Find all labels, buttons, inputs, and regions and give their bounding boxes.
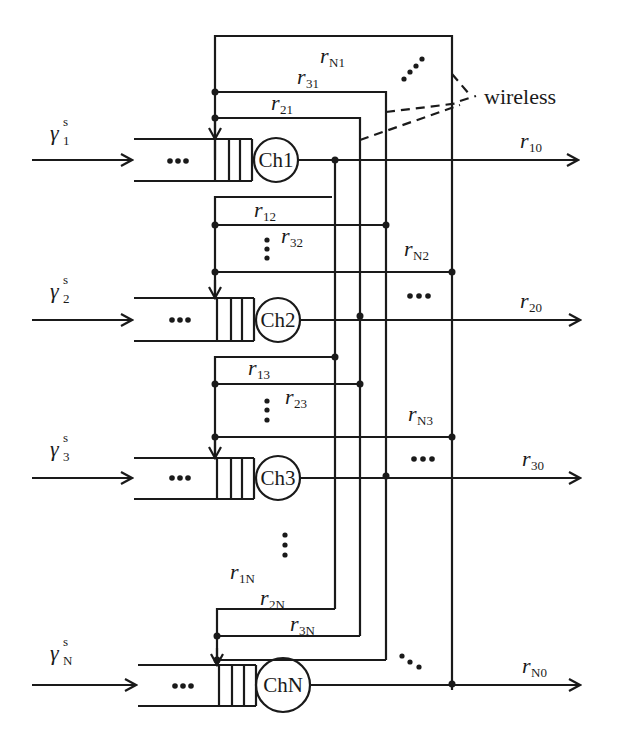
svg-text:r: r	[248, 355, 257, 380]
svg-text:N: N	[63, 653, 73, 668]
transfer-label-r13: r 13	[248, 355, 270, 382]
channel-label-3: Ch3	[260, 466, 295, 490]
svg-text:r: r	[285, 384, 294, 409]
svg-text:r: r	[297, 64, 306, 89]
channel-row-3	[32, 354, 580, 501]
svg-text:r: r	[290, 611, 299, 636]
svg-text:1N: 1N	[239, 571, 256, 586]
wireless-links	[360, 74, 476, 140]
svg-text:3N: 3N	[299, 623, 316, 638]
svg-text:r: r	[230, 559, 239, 584]
transfer-label-r31: r 31	[297, 64, 319, 91]
transfer-label-r23: r 23	[285, 384, 307, 411]
channel-label-2: Ch2	[260, 308, 295, 332]
output-label-3: r 30	[522, 446, 544, 473]
transfer-label-r2N: r 2N	[260, 585, 286, 612]
svg-text:23: 23	[294, 396, 307, 411]
svg-text:γ: γ	[50, 120, 60, 145]
svg-text:r: r	[520, 288, 529, 313]
queue-ellipsis-1	[167, 158, 189, 164]
svg-text:31: 31	[306, 76, 319, 91]
svg-text:r: r	[522, 446, 531, 471]
svg-text:r: r	[320, 43, 329, 68]
svg-text:2N: 2N	[269, 597, 286, 612]
channel-label-1: Ch1	[258, 148, 293, 172]
svg-text:s: s	[63, 114, 68, 129]
svg-text:20: 20	[529, 300, 542, 315]
svg-text:r: r	[260, 585, 269, 610]
svg-text:21: 21	[280, 102, 293, 117]
transfer-label-rN3: r N3	[408, 401, 433, 428]
output-label-2: r 20	[520, 288, 542, 315]
transfer-label-r1N: r 1N	[230, 559, 256, 586]
arrival-label-1: γ s 1	[50, 114, 70, 148]
channel-label-N: ChN	[263, 673, 303, 697]
queue-ellipsis-3	[169, 475, 191, 481]
transfer-label-r3N: r 3N	[290, 611, 316, 638]
svg-text:s: s	[63, 634, 68, 649]
svg-text:N2: N2	[413, 248, 429, 263]
svg-text:r: r	[404, 236, 413, 261]
svg-text:γ: γ	[50, 436, 60, 461]
transfer-label-rN1: r N1	[320, 43, 345, 70]
wireless-label: wireless	[484, 84, 556, 109]
output-label-N: r N0	[522, 653, 547, 680]
svg-text:r: r	[408, 401, 417, 426]
svg-text:30: 30	[531, 458, 544, 473]
transfer-label-rN2: r N2	[404, 236, 429, 263]
svg-text:N0: N0	[531, 665, 547, 680]
svg-text:r: r	[520, 128, 529, 153]
transfer-label-r21: r 21	[271, 90, 293, 117]
svg-text:N3: N3	[417, 413, 433, 428]
svg-text:s: s	[63, 272, 68, 287]
svg-text:γ: γ	[50, 640, 60, 665]
transfer-label-r32: r 32	[281, 223, 303, 250]
transfer-label-r12: r 12	[254, 197, 276, 224]
svg-text:r: r	[522, 653, 531, 678]
queue-network-diagram: wireless Ch1 Ch2 Ch3 ChN γ s 1 γ s 2 γ s…	[0, 0, 618, 746]
ellipsis-marks	[167, 56, 435, 688]
svg-text:10: 10	[529, 140, 542, 155]
arrival-label-3: γ s 3	[50, 430, 70, 464]
svg-text:γ: γ	[50, 278, 60, 303]
svg-text:r: r	[281, 223, 290, 248]
svg-text:N1: N1	[329, 55, 345, 70]
svg-text:1: 1	[63, 133, 70, 148]
queue-ellipsis-2	[169, 317, 191, 323]
channel-row-2	[32, 197, 580, 342]
svg-text:3: 3	[63, 449, 70, 464]
svg-text:13: 13	[257, 367, 270, 382]
arrival-label-N: γ s N	[50, 634, 73, 668]
arrival-label-2: γ s 2	[50, 272, 70, 306]
svg-text:2: 2	[63, 291, 70, 306]
queue-ellipsis-N	[172, 683, 194, 689]
svg-text:12: 12	[263, 209, 276, 224]
svg-text:r: r	[254, 197, 263, 222]
svg-text:32: 32	[290, 235, 303, 250]
svg-text:r: r	[271, 90, 280, 115]
svg-text:s: s	[63, 430, 68, 445]
output-label-1: r 10	[520, 128, 542, 155]
